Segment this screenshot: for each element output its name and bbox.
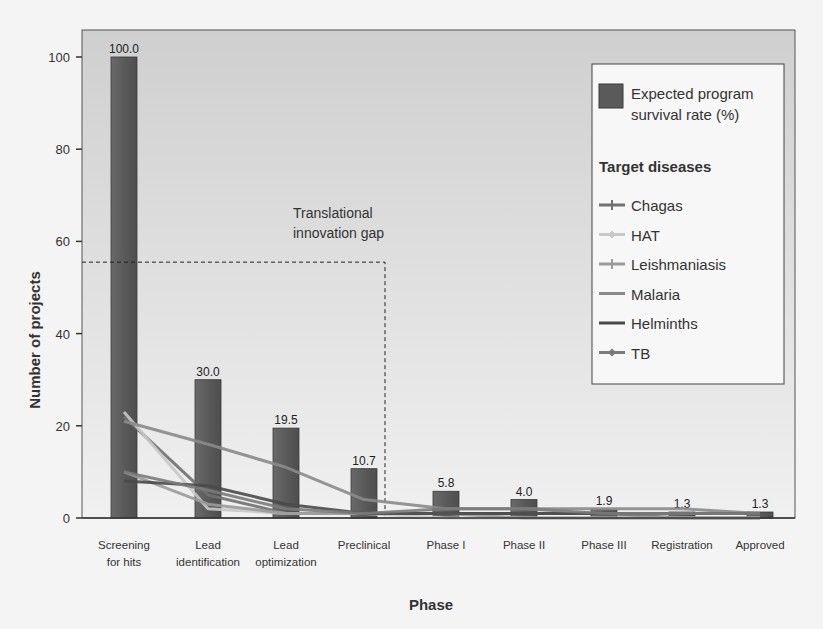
x-tick-label: Preclinical	[338, 539, 390, 551]
x-tick-label: Phase I	[427, 539, 466, 551]
bar	[351, 469, 377, 518]
bar-value-label: 10.7	[352, 454, 376, 468]
x-tick-label: Registration	[651, 539, 712, 551]
legend-entry-chagas: Chagas	[631, 197, 683, 214]
legend-entry-hat: HAT	[631, 227, 660, 244]
bar-value-label: 100.0	[109, 42, 139, 56]
y-tick-label: 80	[56, 142, 70, 157]
gap-annotation-text: Translational	[293, 205, 373, 221]
legend-bar-label: survival rate (%)	[631, 106, 739, 123]
x-tick-label: for hits	[107, 556, 142, 568]
bar-value-label: 30.0	[196, 365, 220, 379]
x-tick-label: Approved	[735, 539, 784, 551]
bar-value-label: 1.9	[596, 494, 613, 508]
x-tick-label: identification	[176, 556, 240, 568]
y-tick-label: 0	[63, 511, 70, 526]
y-axis-title: Number of projects	[26, 271, 43, 409]
bar-value-label: 5.8	[438, 476, 455, 490]
legend-bar-label: Expected program	[631, 85, 754, 102]
y-tick-label: 20	[56, 419, 70, 434]
y-tick-label: 40	[56, 327, 70, 342]
legend-entry-tb: TB	[631, 345, 650, 362]
bar-value-label: 19.5	[274, 413, 298, 427]
x-tick-label: Phase III	[581, 539, 626, 551]
y-tick-label: 60	[56, 234, 70, 249]
legend-entry-leishmaniasis: Leishmaniasis	[631, 256, 726, 273]
legend-heading: Target diseases	[599, 158, 711, 175]
gap-annotation-text: innovation gap	[293, 225, 384, 241]
x-tick-label: Screening	[98, 539, 150, 551]
chart-svg: 020406080100 100.030.019.510.75.84.01.91…	[0, 0, 823, 629]
bar-value-label: 1.3	[752, 497, 769, 511]
x-tick-label: optimization	[255, 556, 316, 568]
legend-entry-helminths: Helminths	[631, 315, 698, 332]
y-axis: 020406080100	[48, 50, 82, 526]
legend: Expected programsurvival rate (%)Target …	[592, 64, 784, 384]
x-axis: Screeningfor hitsLeadidentificationLeado…	[82, 518, 795, 568]
x-tick-label: Lead	[273, 539, 299, 551]
x-axis-title: Phase	[409, 596, 453, 613]
y-tick-label: 100	[48, 50, 70, 65]
x-tick-label: Lead	[195, 539, 221, 551]
legend-bar-swatch	[599, 84, 623, 108]
x-tick-label: Phase II	[503, 539, 545, 551]
legend-entry-malaria: Malaria	[631, 286, 681, 303]
bar	[111, 57, 137, 518]
bar-value-label: 4.0	[516, 485, 533, 499]
